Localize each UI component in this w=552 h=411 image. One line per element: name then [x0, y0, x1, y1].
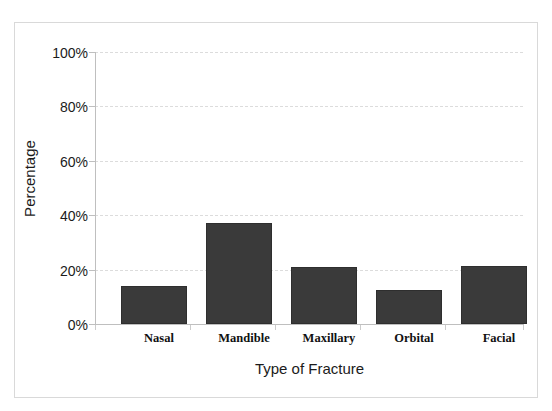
x-tick-mark-1 [190, 325, 191, 330]
y-tick-mark-80 [89, 106, 95, 107]
y-tick-label-60: 60% [32, 154, 88, 170]
x-tick-mark-2 [275, 325, 276, 330]
y-tick-label-80: 80% [32, 99, 88, 115]
gridline-40 [95, 215, 523, 216]
y-tick-label-100: 100% [32, 45, 88, 61]
x-axis-title: Type of Fracture [95, 360, 524, 377]
y-tick-mark-60 [89, 161, 95, 162]
bar-nasal[interactable] [121, 286, 187, 324]
y-tick-label-20: 20% [32, 263, 88, 279]
bar-orbital[interactable] [376, 290, 442, 324]
y-axis-line [95, 52, 96, 325]
y-tick-label-0: 0% [32, 317, 88, 333]
bar-facial[interactable] [461, 266, 527, 324]
x-axis-line [95, 324, 524, 325]
bar-mandible[interactable] [206, 223, 272, 324]
x-tick-mark-5 [523, 325, 524, 330]
gridline-80 [95, 106, 523, 107]
plot-area [95, 52, 523, 324]
gridline-60 [95, 161, 523, 162]
clipped-title-fragment: · · · · [34, 0, 154, 3]
bar-maxillary[interactable] [291, 267, 357, 324]
y-axis-title: Percentage [21, 109, 38, 249]
y-tick-mark-100 [89, 52, 95, 53]
x-tick-mark-3 [360, 325, 361, 330]
x-tick-mark-4 [445, 325, 446, 330]
x-tick-label-facial: Facial [434, 331, 552, 346]
gridline-100 [95, 52, 523, 53]
y-tick-mark-40 [89, 215, 95, 216]
y-tick-label-40: 40% [32, 208, 88, 224]
y-tick-mark-20 [89, 270, 95, 271]
x-tick-mark-0 [95, 325, 96, 330]
